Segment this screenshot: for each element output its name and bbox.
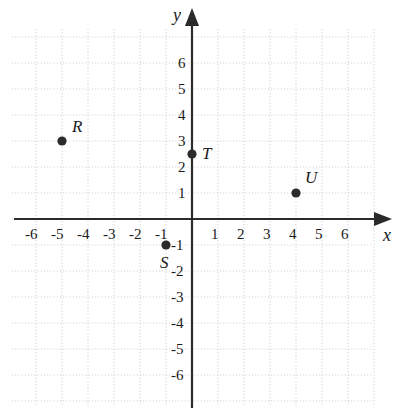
y-axis-tick-label: 6 [178,56,186,71]
x-axis-tick-label: -4 [77,227,90,242]
coordinate-plane-figure: -6-5-4-3-2-1123456654321-1-2-3-4-5-6xyRT… [0,0,400,418]
point-label-u: U [305,169,317,186]
y-axis-tick-label: -1 [171,238,184,253]
y-axis-tick-label: -4 [171,316,184,331]
y-axis-tick-label: 5 [178,82,186,97]
x-axis-tick-label: 5 [315,227,323,242]
y-axis-tick-label: 3 [178,134,186,149]
y-axis-tick-label: -3 [171,290,184,305]
x-axis-tick-label: -2 [129,227,142,242]
x-axis-tick-label: 1 [211,227,219,242]
x-axis-tick-label: 4 [289,227,297,242]
x-axis-tick-label: 2 [237,227,245,242]
x-axis-tick-label: -3 [103,227,116,242]
y-axis-tick-label: -2 [171,264,184,279]
data-point-u [291,188,300,197]
x-axis-tick-label: -6 [25,227,38,242]
y-axis-tick-label: 2 [178,160,186,175]
y-axis-name-label: y [173,6,181,24]
data-point-t [187,149,196,158]
point-label-t: T [202,145,211,162]
x-axis-tick-label: -1 [155,227,168,242]
y-axis-tick-label: 1 [178,186,186,201]
y-axis-tick-label: -6 [171,368,184,383]
coordinate-plane-svg [0,0,400,418]
y-axis-tick-label: 4 [178,108,186,123]
x-axis-tick-label: 6 [341,227,349,242]
x-axis-tick-label: -5 [51,227,64,242]
axis-lines [14,8,392,408]
x-axis-tick-label: 3 [263,227,271,242]
x-axis-name-label: x [383,226,391,244]
point-label-r: R [72,118,82,135]
x-axis-arrowhead [374,212,392,226]
point-label-s: S [160,254,169,271]
y-axis-arrowhead [185,8,199,26]
data-point-r [57,136,66,145]
y-axis-tick-label: -5 [171,342,184,357]
